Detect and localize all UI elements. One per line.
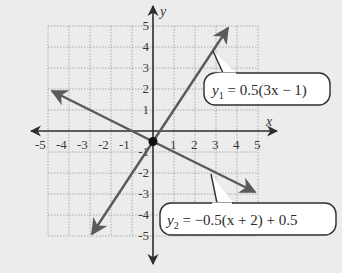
svg-text:-2: -2 bbox=[98, 137, 109, 152]
callout-y2: y2 = −0.5(x + 2) + 0.5 bbox=[160, 174, 336, 235]
coordinate-plane: x y -5 -4 -3 -2 -1 1 2 3 4 5 5 4 3 2 1 -… bbox=[0, 0, 342, 273]
svg-text:-3: -3 bbox=[138, 186, 149, 201]
svg-text:-5: -5 bbox=[138, 228, 149, 243]
x-axis-label: x bbox=[265, 114, 273, 129]
svg-text:-5: -5 bbox=[35, 137, 46, 152]
y-axis-label: y bbox=[158, 4, 167, 19]
svg-text:1: 1 bbox=[143, 102, 150, 117]
svg-text:3: 3 bbox=[143, 60, 150, 75]
svg-text:-2: -2 bbox=[138, 165, 149, 180]
svg-text:2: 2 bbox=[191, 137, 198, 152]
svg-text:5: 5 bbox=[254, 137, 261, 152]
svg-text:-4: -4 bbox=[56, 137, 67, 152]
svg-text:2: 2 bbox=[143, 81, 150, 96]
svg-text:4: 4 bbox=[233, 137, 240, 152]
svg-text:-4: -4 bbox=[138, 207, 149, 222]
svg-text:-1: -1 bbox=[119, 137, 130, 152]
svg-text:5: 5 bbox=[143, 18, 150, 33]
svg-text:-3: -3 bbox=[77, 137, 88, 152]
callout-y1: y1 = 0.5(3x − 1) bbox=[204, 51, 330, 105]
svg-text:3: 3 bbox=[212, 137, 219, 152]
svg-text:4: 4 bbox=[143, 39, 150, 54]
intersection-point bbox=[149, 137, 158, 146]
